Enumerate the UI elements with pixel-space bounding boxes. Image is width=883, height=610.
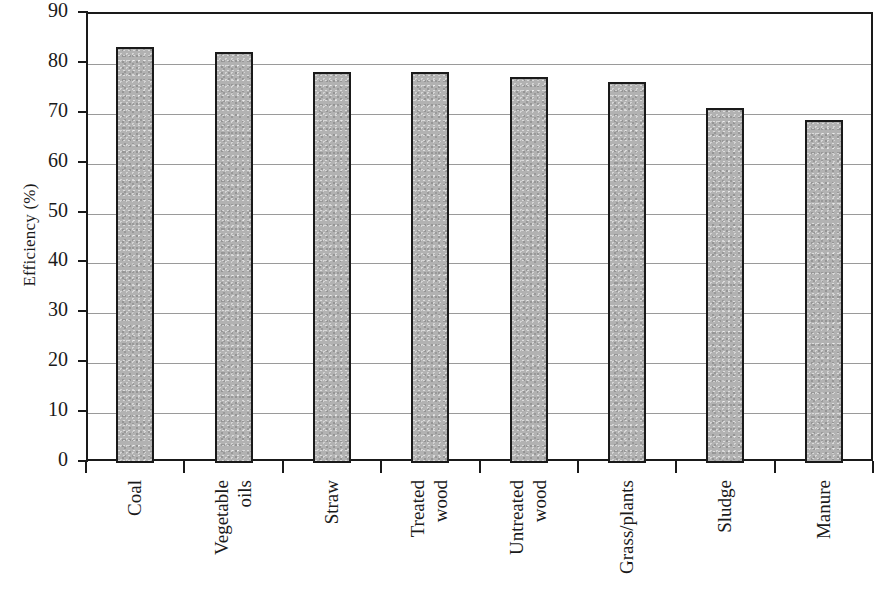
bar-straw xyxy=(313,72,351,463)
x-label-line: wood xyxy=(528,480,551,610)
gridline-10 xyxy=(88,413,871,414)
y-tick-label-80: 80 xyxy=(8,50,68,70)
x-label-line: Grass/plants xyxy=(616,480,637,574)
x-label-line: oils xyxy=(233,480,256,610)
x-category-label-manure: Manure xyxy=(812,480,838,610)
plot-area xyxy=(86,12,873,461)
x-label-line: Straw xyxy=(321,480,342,524)
x-label-line: Treated xyxy=(406,480,429,610)
y-tick-label-50: 50 xyxy=(8,200,68,220)
gridline-20 xyxy=(88,363,871,364)
x-label-line: Manure xyxy=(813,480,834,539)
x-tick-5 xyxy=(577,461,579,473)
bar-manure xyxy=(805,120,843,463)
gridline-60 xyxy=(88,164,871,165)
y-tick-label-90: 90 xyxy=(8,0,68,20)
gridline-70 xyxy=(88,114,871,115)
x-tick-7 xyxy=(774,461,776,473)
x-category-label-vegetable-oils: Vegetableoils xyxy=(210,480,260,610)
x-tick-edge-8 xyxy=(872,461,874,473)
y-tick-label-40: 40 xyxy=(8,249,68,269)
gridline-40 xyxy=(88,263,871,264)
y-tick-label-0: 0 xyxy=(8,449,68,469)
y-tick-label-10: 10 xyxy=(8,399,68,419)
bar-vegetable-oils xyxy=(215,52,253,463)
bar-coal xyxy=(116,47,154,463)
x-tick-6 xyxy=(675,461,677,473)
x-tick-1 xyxy=(183,461,185,473)
x-label-line: wood xyxy=(429,480,452,610)
y-tick-label-70: 70 xyxy=(8,100,68,120)
x-tick-4 xyxy=(479,461,481,473)
x-label-line: Coal xyxy=(124,480,145,516)
x-category-label-treated-wood: Treatedwood xyxy=(406,480,456,610)
x-category-label-untreated-wood: Untreatedwood xyxy=(505,480,555,610)
y-tick-label-20: 20 xyxy=(8,349,68,369)
x-label-line: Vegetable xyxy=(210,480,233,610)
bar-treated-wood xyxy=(411,72,449,463)
y-tick-label-60: 60 xyxy=(8,150,68,170)
x-label-line: Untreated xyxy=(505,480,528,610)
y-tick-label-30: 30 xyxy=(8,299,68,319)
x-tick-2 xyxy=(282,461,284,473)
x-category-label-straw: Straw xyxy=(320,480,346,610)
bar-sludge xyxy=(706,108,744,463)
gridline-50 xyxy=(88,214,871,215)
x-label-line: Sludge xyxy=(714,480,735,533)
bar-chart-figure: Efficiency (%) 0102030405060708090 CoalV… xyxy=(0,0,883,610)
bar-untreated-wood xyxy=(510,77,548,463)
x-category-label-sludge: Sludge xyxy=(713,480,739,610)
gridline-30 xyxy=(88,313,871,314)
x-category-label-coal: Coal xyxy=(123,480,149,610)
gridline-80 xyxy=(88,64,871,65)
bar-grass-plants xyxy=(608,82,646,463)
x-tick-3 xyxy=(380,461,382,473)
x-category-label-grass-plants: Grass/plants xyxy=(615,480,641,610)
x-tick-edge-0 xyxy=(85,461,87,473)
